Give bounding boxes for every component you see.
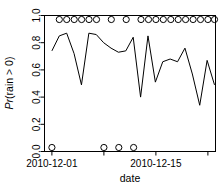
x-tick-label-mid: 2010-12-15 [130, 158, 182, 169]
y-tick-label: 0.2 [31, 117, 42, 131]
y-axis-title-italic-part: Pr [3, 98, 15, 109]
svg-text:Pr(rain > 0): Pr(rain > 0) [3, 57, 15, 110]
x-axis-ticks [52, 152, 208, 156]
x-axis-title: date [120, 172, 141, 184]
probability-line [52, 33, 215, 105]
y-tick-label: 0.0 [31, 144, 42, 158]
plot-frame [45, 16, 216, 152]
y-tick-label: 1.0 [31, 8, 42, 22]
y-tick-label: 0.6 [31, 63, 42, 77]
y-axis-title: Pr(rain > 0) [3, 57, 15, 110]
y-tick-label: 0.4 [31, 90, 42, 104]
y-tick-label: 0.8 [31, 35, 42, 49]
chart-canvas: 0.0 0.2 0.4 0.6 0.8 1.0 Pr(rain > 0) 201… [0, 0, 224, 187]
observed-rain-no-markers [49, 144, 137, 150]
observed-rain-yes-markers [56, 16, 217, 22]
x-tick-label-start: 2010-12-01 [26, 158, 78, 169]
x-axis-tick-labels: 2010-12-01 2010-12-15 [26, 158, 182, 169]
y-axis-title-rest: (rain > 0) [3, 57, 15, 99]
rain-probability-chart: 0.0 0.2 0.4 0.6 0.8 1.0 Pr(rain > 0) 201… [0, 0, 224, 187]
y-axis-tick-labels: 0.0 0.2 0.4 0.6 0.8 1.0 [31, 8, 42, 158]
